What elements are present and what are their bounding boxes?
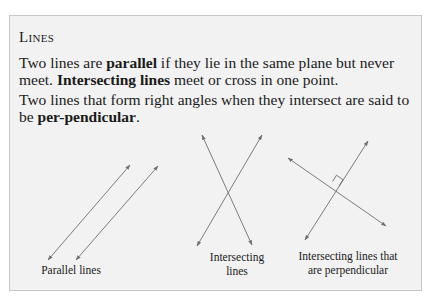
definition-box: Lines Two lines are parallel if they lie… <box>9 15 422 291</box>
caption-intersecting: Intersecting lines <box>197 250 277 278</box>
perpendicular-line-2 <box>305 141 368 240</box>
intersecting-line-2 <box>197 135 262 246</box>
caption-line: are perpendicular <box>288 263 408 277</box>
caption-parallel: Parallel lines <box>26 263 116 277</box>
caption-line: Parallel lines <box>26 263 116 277</box>
right-angle-mark <box>333 175 344 186</box>
caption-perpendicular: Intersecting lines that are perpendicula… <box>288 249 408 277</box>
caption-line: Intersecting lines that <box>288 249 408 263</box>
caption-line: Intersecting <box>197 250 277 264</box>
caption-line: lines <box>197 264 277 278</box>
perpendicular-line-1 <box>288 158 386 226</box>
intersecting-line-1 <box>202 135 252 245</box>
